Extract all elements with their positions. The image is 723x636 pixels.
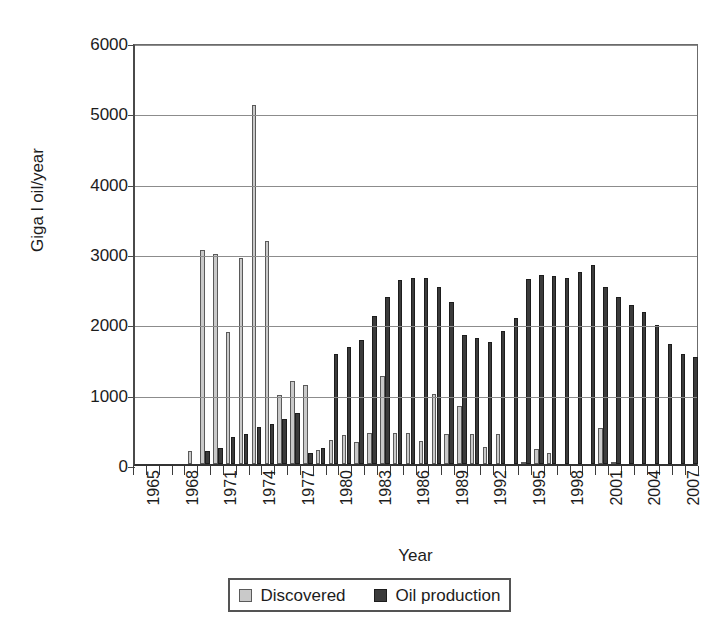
bar-oil-production <box>616 297 620 464</box>
x-tick-label: 1986 <box>416 470 432 506</box>
bar-oil-production <box>244 434 248 464</box>
legend-swatch-oil-production <box>374 589 387 602</box>
gridline <box>135 186 697 187</box>
oil-discovery-production-chart: Giga l oil/year 010002000300040005000600… <box>0 0 723 636</box>
gridline <box>135 397 697 398</box>
bar-oil-production <box>539 275 543 464</box>
bar-oil-production <box>334 354 338 464</box>
gridline <box>135 326 697 327</box>
bar-discovered <box>406 433 410 464</box>
bar-oil-production <box>282 419 286 464</box>
bar-oil-production <box>668 344 672 464</box>
bar-oil-production <box>205 451 209 464</box>
bar-oil-production <box>629 305 633 464</box>
bar-oil-production <box>270 424 274 464</box>
bar-oil-production <box>308 453 312 464</box>
y-tick-mark <box>128 397 135 398</box>
bar-oil-production <box>437 287 441 464</box>
bar-discovered <box>200 250 204 464</box>
bar-discovered <box>611 462 615 464</box>
bar-discovered <box>252 105 256 464</box>
x-tick-label: 1965 <box>146 470 162 506</box>
bar-discovered <box>419 441 423 464</box>
bar-oil-production <box>591 265 595 464</box>
bar-oil-production <box>295 413 299 464</box>
x-tick-label: 2004 <box>647 470 663 506</box>
bar-oil-production <box>655 325 659 464</box>
x-tick-label: 1995 <box>532 470 548 506</box>
bar-oil-production <box>526 279 530 464</box>
bar-discovered <box>598 428 602 464</box>
x-axis-title: Year <box>133 546 698 566</box>
legend-label-discovered: Discovered <box>261 587 346 604</box>
x-tick-label: 1977 <box>301 470 317 506</box>
x-tick-label: 1989 <box>455 470 471 506</box>
bar-oil-production <box>578 272 582 464</box>
bar-oil-production <box>347 347 351 464</box>
bar-oil-production <box>565 278 569 464</box>
bar-discovered <box>239 258 243 464</box>
bar-discovered <box>342 435 346 464</box>
bar-discovered <box>444 434 448 464</box>
legend-label-oil-production: Oil production <box>396 587 501 604</box>
x-tick-label: 1968 <box>185 470 201 506</box>
bar-oil-production <box>552 276 556 464</box>
bar-oil-production <box>385 297 389 464</box>
y-tick-label: 4000 <box>50 176 128 193</box>
x-tick-label: 1974 <box>262 470 278 506</box>
bar-discovered <box>367 433 371 464</box>
bar-oil-production <box>514 318 518 464</box>
x-tick-label: 2001 <box>609 470 625 506</box>
bar-oil-production <box>642 312 646 464</box>
bar-series-container <box>135 45 697 464</box>
bar-discovered <box>483 447 487 464</box>
plot-area <box>133 44 698 466</box>
bar-discovered <box>432 394 436 464</box>
bar-oil-production <box>424 278 428 464</box>
bar-discovered <box>457 406 461 464</box>
bar-discovered <box>265 241 269 464</box>
bar-discovered <box>534 449 538 464</box>
y-tick-mark <box>128 326 135 327</box>
gridline <box>135 256 697 257</box>
bar-discovered <box>188 451 192 464</box>
bar-discovered <box>213 254 217 464</box>
y-tick-label: 3000 <box>50 247 128 264</box>
x-tick-label: 1983 <box>378 470 394 506</box>
chart-legend: Discovered Oil production <box>228 578 511 612</box>
y-tick-label: 1000 <box>50 387 128 404</box>
bar-oil-production <box>257 427 261 464</box>
bar-oil-production <box>372 316 376 464</box>
x-axis-tick-labels: 1965196819711974197719801983198619891992… <box>0 470 723 540</box>
bar-oil-production <box>603 287 607 464</box>
y-tick-mark <box>128 115 135 116</box>
y-tick-mark <box>128 256 135 257</box>
y-tick-mark <box>128 45 135 46</box>
bar-discovered <box>290 381 294 464</box>
bar-discovered <box>316 450 320 464</box>
x-tick-label: 1998 <box>570 470 586 506</box>
bar-discovered <box>277 395 281 464</box>
bar-discovered <box>496 434 500 464</box>
gridline <box>135 115 697 116</box>
x-tick-label: 1992 <box>493 470 509 506</box>
bar-oil-production <box>693 357 697 464</box>
x-tick-label: 1971 <box>223 470 239 506</box>
bar-oil-production <box>398 280 402 464</box>
legend-item-oil-production: Oil production <box>374 587 501 604</box>
x-tick-label: 2007 <box>686 470 702 506</box>
bar-discovered <box>226 332 230 464</box>
bar-oil-production <box>488 342 492 464</box>
y-tick-label: 6000 <box>50 36 128 53</box>
legend-swatch-discovered <box>239 589 252 602</box>
bar-discovered <box>354 442 358 464</box>
x-tick-label: 1980 <box>339 470 355 506</box>
y-tick-mark <box>128 186 135 187</box>
bar-oil-production <box>218 448 222 464</box>
bar-oil-production <box>475 338 479 464</box>
bar-discovered <box>380 376 384 464</box>
bar-oil-production <box>359 340 363 464</box>
legend-item-discovered: Discovered <box>239 587 346 604</box>
y-tick-label: 2000 <box>50 317 128 334</box>
gridline <box>135 45 697 46</box>
